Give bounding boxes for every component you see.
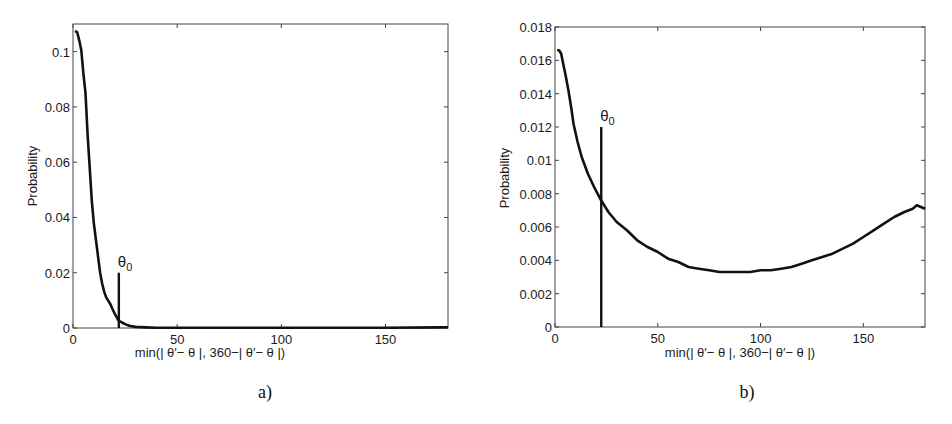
x-tick-label: 0 bbox=[69, 332, 76, 347]
x-tick-label: 150 bbox=[852, 331, 874, 346]
y-axis-label-b: Probability bbox=[497, 147, 512, 208]
y-tick-label: 0.01 bbox=[527, 153, 552, 168]
y-axis-label-a: Probability bbox=[25, 145, 40, 206]
y-tick-label: 0.014 bbox=[519, 87, 552, 102]
y-tick-label: 0.1 bbox=[52, 45, 70, 60]
x-tick-label: 100 bbox=[750, 331, 772, 346]
y-tick-label: 0.012 bbox=[519, 120, 552, 135]
x-tick-label: 150 bbox=[375, 332, 397, 347]
x-tick-label: 50 bbox=[651, 331, 665, 346]
chart-panel-a: 00.020.040.060.080.1 050100150 θ0 min(| … bbox=[25, 24, 448, 403]
y-tick-label: 0.004 bbox=[519, 253, 552, 268]
panel-caption-a: a) bbox=[258, 382, 272, 403]
figure: 00.020.040.060.080.1 050100150 θ0 min(| … bbox=[0, 0, 952, 424]
panel-caption-b: b) bbox=[740, 382, 755, 403]
y-tick-label: 0.08 bbox=[45, 100, 70, 115]
y-tick-label: 0.006 bbox=[519, 220, 552, 235]
y-tick-label: 0.018 bbox=[519, 20, 552, 35]
y-tick-label: 0.016 bbox=[519, 53, 552, 68]
y-tick-label: 0.02 bbox=[45, 266, 70, 281]
y-tick-label: 0.002 bbox=[519, 287, 552, 302]
x-axis-label-a: min(| θ′− θ |, 360−| θ′− θ |) bbox=[135, 345, 285, 360]
x-tick-label: 0 bbox=[551, 331, 558, 346]
x-axis-label-b: min(| θ′− θ |, 360−| θ′− θ |) bbox=[665, 345, 815, 360]
y-tick-label: 0.008 bbox=[519, 187, 552, 202]
plot-area-b bbox=[555, 27, 925, 327]
y-tick-label: 0.06 bbox=[45, 155, 70, 170]
y-tick-label: 0.04 bbox=[45, 210, 70, 225]
plot-area-a bbox=[73, 24, 448, 328]
chart-panel-b: 00.0020.0040.0060.0080.010.0120.0140.016… bbox=[497, 20, 925, 403]
